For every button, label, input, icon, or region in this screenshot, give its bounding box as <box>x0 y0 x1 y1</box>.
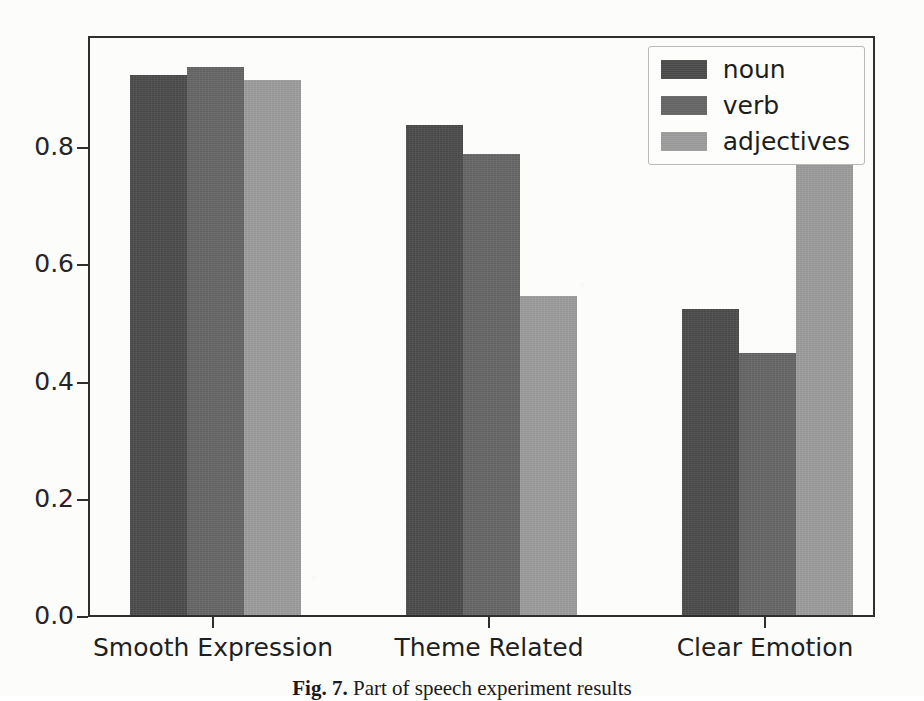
legend-label-verb: verb <box>723 93 779 118</box>
x-tick-mark <box>212 617 214 628</box>
caption-number: Fig. 7. <box>292 676 347 700</box>
caption-text: Part of speech experiment results <box>353 676 632 700</box>
y-tick-mark <box>77 382 88 384</box>
x-tick-label: Theme Related <box>394 633 583 662</box>
y-tick-label: 0.6 <box>34 249 74 278</box>
bar-noun-clear-emotion <box>682 309 739 615</box>
legend-swatch-adjectives <box>661 132 707 151</box>
y-tick-mark <box>77 264 88 266</box>
x-tick-mark <box>764 617 766 628</box>
bar-verb-theme-related <box>463 154 520 615</box>
legend-item-noun: noun <box>661 56 850 82</box>
plot-frame: noun verb adjectives <box>88 36 875 617</box>
chart-legend: noun verb adjectives <box>648 46 865 165</box>
y-tick-mark <box>77 499 88 501</box>
legend-label-adjectives: adjectives <box>723 129 850 154</box>
bar-adjectives-clear-emotion <box>796 160 853 615</box>
x-tick-label: Smooth Expression <box>93 633 333 662</box>
legend-swatch-verb <box>661 96 707 115</box>
y-tick-label: 0.8 <box>34 132 74 161</box>
legend-label-noun: noun <box>723 57 786 82</box>
x-tick-mark <box>488 617 490 628</box>
bar-verb-smooth-expression <box>187 67 244 615</box>
legend-item-verb: verb <box>661 92 850 118</box>
y-tick-label: 0.0 <box>34 601 74 630</box>
bar-adjectives-smooth-expression <box>244 80 301 615</box>
y-tick-label: 0.2 <box>34 484 74 513</box>
x-tick-label: Clear Emotion <box>677 633 854 662</box>
bar-verb-clear-emotion <box>739 353 796 615</box>
bar-adjectives-theme-related <box>520 296 577 615</box>
y-tick-mark <box>77 616 88 618</box>
y-tick-label: 0.4 <box>34 367 74 396</box>
legend-item-adjectives: adjectives <box>661 128 850 154</box>
bar-noun-theme-related <box>406 125 463 615</box>
y-tick-mark <box>77 147 88 149</box>
figure-caption: Fig. 7. Part of speech experiment result… <box>0 676 924 701</box>
legend-swatch-noun <box>661 60 707 79</box>
bar-noun-smooth-expression <box>130 75 187 615</box>
